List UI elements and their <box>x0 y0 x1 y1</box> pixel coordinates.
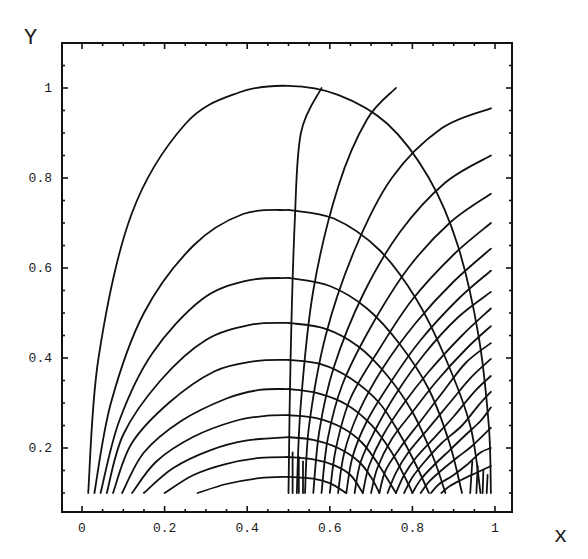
curve-vertical-right-2 <box>476 466 477 493</box>
x-tick-label: 0.4 <box>235 521 259 536</box>
x-tick-label: 0.2 <box>153 521 176 536</box>
contour-plot: 00.20.40.60.81 0.20.40.60.81 Y x <box>0 0 588 559</box>
curve-left-arc-10 <box>198 477 289 493</box>
y-tick-label: 1 <box>44 81 52 96</box>
curve-radial-2 <box>297 88 396 493</box>
x-tick-label: 0 <box>78 521 86 536</box>
curve-radial-4 <box>313 156 491 494</box>
curve-radial-5 <box>322 194 491 493</box>
curve-vertical-right-3 <box>483 471 484 494</box>
y-axis-title: Y <box>24 26 37 51</box>
curve-radial-3 <box>305 108 491 493</box>
curve-left-arc-8 <box>144 437 289 493</box>
curve-left-arc-3 <box>101 278 289 493</box>
curve-vertical-right-4 <box>487 475 488 493</box>
y-tick-label: 0.8 <box>29 171 52 186</box>
curve-radial-1 <box>289 88 322 493</box>
x-axis-title: x <box>554 524 567 549</box>
y-tick-label: 0.2 <box>29 441 52 456</box>
curve-vertical-right-1 <box>470 462 472 494</box>
curve-left-arc-5 <box>113 360 289 493</box>
y-tick-label: 0.6 <box>29 261 52 276</box>
x-tick-label: 0.8 <box>401 521 424 536</box>
y-tick-label: 0.4 <box>29 351 53 366</box>
curve-left-arc-2 <box>94 210 288 493</box>
curve-group <box>88 86 491 493</box>
x-tick-label: 1 <box>491 521 499 536</box>
x-tick-label: 0.6 <box>318 521 341 536</box>
